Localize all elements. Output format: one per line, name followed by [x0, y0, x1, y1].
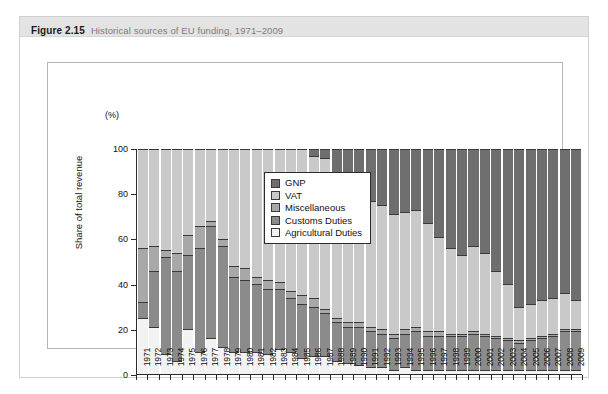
x-label-cell: 1999: [456, 357, 467, 394]
legend-item: GNP: [271, 177, 362, 189]
bar-segment-gnp: [434, 149, 444, 237]
y-tick: [131, 194, 136, 195]
x-label-cell: 2007: [548, 357, 559, 394]
bar-segment-cust: [275, 289, 285, 350]
x-label-cell: 1998: [445, 357, 456, 394]
bar-segment-vat: [218, 149, 228, 239]
x-label-cell: 1989: [342, 357, 353, 394]
x-tick-label: 2009: [576, 348, 586, 367]
bar-segment-gnp: [423, 149, 433, 223]
bar-segment-cust: [286, 298, 296, 352]
bar-segment-gnp: [411, 149, 421, 210]
x-label-cell: 1991: [365, 357, 376, 394]
bar-segment-gnp: [548, 149, 558, 298]
legend-item: Miscellaneous: [271, 202, 362, 214]
bar-segment-vat: [195, 149, 205, 226]
bar-segment-vat: [480, 253, 490, 334]
bar-column: [559, 149, 570, 374]
x-label-cell: 1976: [193, 357, 204, 394]
bar-column: [502, 149, 513, 374]
bar-column: [217, 149, 228, 374]
bar-segment-vat: [537, 300, 547, 336]
x-label-cell: 2004: [513, 357, 524, 394]
bar-segment-misc: [286, 291, 296, 298]
bar-column: [194, 149, 205, 374]
x-label-cell: 1992: [376, 357, 387, 394]
bar-segment-gnp: [571, 149, 581, 300]
x-label-cell: 1974: [170, 357, 181, 394]
bar-segment-vat: [389, 214, 399, 333]
x-label-cell: 1994: [399, 357, 410, 394]
bar-segment-vat: [491, 271, 501, 336]
bar-column: [491, 149, 502, 374]
x-label-cell: 1987: [319, 357, 330, 394]
bar-segment-gnp: [377, 149, 387, 205]
legend-item: Agricultural Duties: [271, 227, 362, 239]
bar-segment-vat: [149, 149, 159, 246]
x-label-cell: 1988: [330, 357, 341, 394]
x-label-cell: 1980: [239, 357, 250, 394]
chart-container: (%) Share of total revenue 020406080100 …: [47, 62, 563, 349]
legend-label: VAT: [285, 191, 302, 201]
y-tick-label: 80: [102, 190, 128, 199]
bar-segment-gnp: [514, 149, 524, 307]
bar-column: [513, 149, 524, 374]
bar-segment-cust: [195, 248, 205, 352]
bar-segment-vat: [183, 149, 193, 235]
bar-segment-cust: [240, 280, 250, 352]
legend-swatch-icon: [271, 216, 280, 225]
bar-segment-cust: [138, 302, 148, 318]
bar-segment-vat: [172, 149, 182, 253]
bar-column: [445, 149, 456, 374]
bar-segment-vat: [252, 149, 262, 277]
x-label-cell: 1995: [411, 357, 422, 394]
x-label-cell: 1986: [308, 357, 319, 394]
bar-segment-cust: [206, 226, 216, 339]
legend-swatch-icon: [271, 203, 280, 212]
bar-segment-misc: [275, 282, 285, 289]
x-label-cell: 1993: [388, 357, 399, 394]
bar-segment-cust: [149, 271, 159, 327]
y-tick: [131, 285, 136, 286]
bar-column: [479, 149, 490, 374]
bar-segment-misc: [252, 277, 262, 284]
bar-segment-cust: [252, 284, 262, 352]
bar-segment-misc: [229, 266, 239, 277]
bar-segment-misc: [161, 250, 171, 257]
x-label-cell: 1977: [205, 357, 216, 394]
y-tick: [131, 330, 136, 331]
bar-segment-gnp: [503, 149, 513, 284]
bar-segment-vat: [434, 237, 444, 332]
x-tick: [582, 375, 583, 380]
legend-swatch-icon: [271, 191, 280, 200]
legend-item: Customs Duties: [271, 214, 362, 226]
bar-segment-vat: [571, 300, 581, 329]
y-tick: [131, 149, 136, 150]
figure-frame: Figure 2.15Historical sources of EU fund…: [19, 16, 589, 378]
bar-segment-vat: [138, 149, 148, 248]
legend-label: Customs Duties: [285, 216, 352, 226]
bar-segment-gnp: [446, 149, 456, 248]
chart-legend: GNPVATMiscellaneousCustoms DutiesAgricul…: [264, 172, 371, 244]
y-tick-label: 60: [102, 235, 128, 244]
bar-segment-gnp: [389, 149, 399, 214]
bar-column: [377, 149, 388, 374]
bar-segment-misc: [138, 248, 148, 302]
bar-segment-vat: [229, 149, 239, 266]
figure-title: Historical sources of EU funding, 1971–2…: [91, 25, 283, 36]
x-label-cell: 1979: [228, 357, 239, 394]
bar-column: [137, 149, 148, 374]
bar-column: [468, 149, 479, 374]
x-label-cell: 2001: [479, 357, 490, 394]
bar-segment-vat: [400, 212, 410, 329]
bar-segment-vat: [468, 246, 478, 332]
x-label-cell: 1981: [250, 357, 261, 394]
bar-segment-misc: [218, 239, 228, 246]
legend-label: GNP: [285, 178, 306, 188]
x-label-cell: 2000: [468, 357, 479, 394]
bar-segment-gnp: [309, 149, 319, 156]
y-tick-label: 100: [102, 145, 128, 154]
x-label-cell: 1985: [296, 357, 307, 394]
x-label-cell: 1997: [433, 357, 444, 394]
bar-column: [548, 149, 559, 374]
